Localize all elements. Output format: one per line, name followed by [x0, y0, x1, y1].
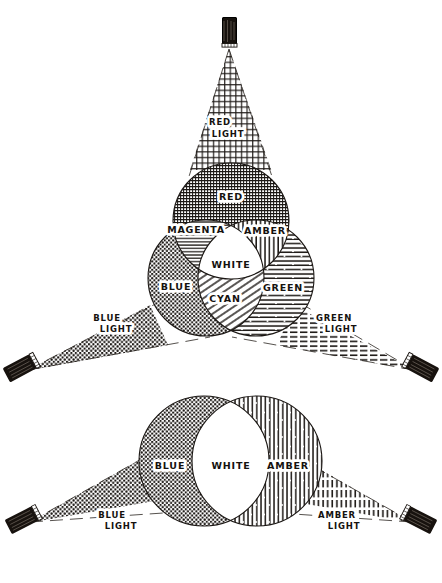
label-blue-light-2: LIGHT — [100, 324, 132, 334]
label-green-light-2: LIGHT — [325, 324, 357, 334]
bottom-region-labels: BLUE BLUE WHITE WHITE AMBER AMBER — [155, 460, 309, 471]
label-blue-light-2-1: BLUE — [98, 510, 126, 520]
color-mixing-illustration: RED RED MAGENTA MAGENTA AMBER AMBER WHIT… — [0, 0, 442, 583]
label-amber-light-2-2: LIGHT — [328, 521, 360, 531]
label-red: RED — [219, 191, 243, 202]
label-blue-light-1: BLUE — [93, 313, 121, 323]
label-amber-2: AMBER — [267, 460, 309, 471]
label-amber-light-2-1: AMBER — [318, 510, 356, 520]
label-cyan: CYAN — [209, 293, 240, 304]
lamp-red — [222, 17, 237, 47]
label-green-light-1: GREEN — [316, 313, 352, 323]
label-white: WHITE — [212, 259, 251, 270]
label-red-light-2: LIGHT — [212, 129, 244, 139]
label-magenta: MAGENTA — [167, 224, 225, 235]
figure-canvas: RED RED MAGENTA MAGENTA AMBER AMBER WHIT… — [0, 0, 442, 583]
label-white-2: WHITE — [212, 460, 251, 471]
label-blue: BLUE — [161, 281, 191, 292]
label-amber: AMBER — [244, 225, 286, 236]
label-blue-2: BLUE — [155, 460, 185, 471]
label-green: GREEN — [263, 282, 303, 293]
label-blue-light-2-2: LIGHT — [105, 521, 137, 531]
label-red-light-1: RED — [209, 117, 231, 127]
